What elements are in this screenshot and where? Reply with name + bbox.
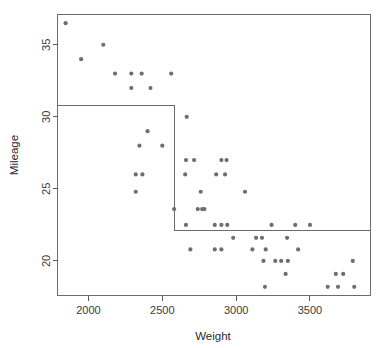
data-point xyxy=(341,272,345,276)
data-point xyxy=(260,236,264,240)
data-point xyxy=(184,158,188,162)
data-point xyxy=(188,247,192,251)
data-point xyxy=(213,247,217,251)
data-point xyxy=(269,223,273,227)
x-axis-ticks: 2000250030003500 xyxy=(76,296,322,316)
x-tick-label: 3500 xyxy=(298,304,322,316)
data-point xyxy=(225,223,229,227)
data-point xyxy=(169,71,173,75)
data-point xyxy=(352,285,356,289)
data-point xyxy=(113,71,117,75)
data-point xyxy=(286,259,290,263)
data-point xyxy=(263,285,267,289)
data-point xyxy=(140,172,144,176)
data-point xyxy=(172,207,176,211)
x-axis-title: Weight xyxy=(195,330,231,342)
data-point xyxy=(134,190,138,194)
data-point xyxy=(184,223,188,227)
scatter-plot-figure: 2000250030003500 20253035 Weight Mileage xyxy=(0,0,386,348)
data-point xyxy=(214,172,218,176)
y-axis-ticks: 20253035 xyxy=(40,39,57,267)
data-point xyxy=(213,223,217,227)
data-point xyxy=(196,207,200,211)
data-point xyxy=(279,259,283,263)
data-point xyxy=(199,190,203,194)
x-tick-label: 2000 xyxy=(76,304,100,316)
data-point xyxy=(202,207,206,211)
data-point xyxy=(231,236,235,240)
data-point xyxy=(145,129,149,133)
data-point xyxy=(296,247,300,251)
data-point xyxy=(79,57,83,61)
data-points-group xyxy=(64,21,357,289)
data-point xyxy=(223,172,227,176)
plot-canvas: 2000250030003500 20253035 Weight Mileage xyxy=(0,0,386,348)
data-point xyxy=(326,285,330,289)
data-point xyxy=(101,43,105,47)
data-point xyxy=(284,272,288,276)
x-tick-label: 3000 xyxy=(224,304,248,316)
y-tick-label: 20 xyxy=(40,255,52,267)
data-point xyxy=(273,259,277,263)
data-point xyxy=(185,115,189,119)
data-point xyxy=(134,172,138,176)
partition-step-line xyxy=(58,105,371,230)
data-point xyxy=(243,190,247,194)
data-point xyxy=(219,158,223,162)
data-point xyxy=(183,172,187,176)
data-point xyxy=(129,71,133,75)
data-point xyxy=(261,259,265,263)
data-point xyxy=(285,236,289,240)
data-point xyxy=(351,259,355,263)
data-point xyxy=(160,144,164,148)
data-point xyxy=(219,223,223,227)
data-point xyxy=(148,86,152,90)
data-point xyxy=(264,247,268,251)
data-point xyxy=(334,272,338,276)
y-tick-label: 30 xyxy=(40,111,52,123)
y-axis-title: Mileage xyxy=(8,135,20,175)
data-point xyxy=(219,247,223,251)
data-point xyxy=(192,158,196,162)
data-point xyxy=(336,285,340,289)
data-point xyxy=(64,21,68,25)
y-tick-label: 35 xyxy=(40,39,52,51)
data-point xyxy=(254,236,258,240)
data-point xyxy=(140,71,144,75)
data-point xyxy=(293,223,297,227)
y-tick-label: 25 xyxy=(40,183,52,195)
data-point xyxy=(224,158,228,162)
x-tick-label: 2500 xyxy=(150,304,174,316)
data-point xyxy=(129,86,133,90)
data-point xyxy=(137,144,141,148)
plot-frame xyxy=(58,15,371,296)
data-point xyxy=(250,247,254,251)
data-point xyxy=(308,223,312,227)
